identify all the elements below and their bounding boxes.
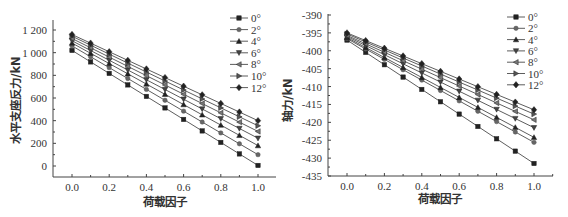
circle-marker-icon [532,140,536,144]
triangle-up-marker-icon [438,85,443,90]
y-axis-title: 水平支座反力/kN [9,56,23,143]
y-tick-label: -415 [302,98,323,110]
triangle-down-marker-icon [162,87,167,92]
legend-label: 0° [528,11,538,23]
y-tick-label: -400 [302,45,323,57]
legend-label: 6° [528,45,538,57]
triangle-left-marker-icon [255,129,260,134]
x-tick-label: 0.4 [140,181,154,193]
square-marker-icon [420,87,424,91]
triangle-down-marker-icon [255,136,260,141]
diamond-marker-icon [255,117,260,123]
triangle-up-marker-icon [200,112,205,117]
y-tick-label: 200 [31,137,48,149]
legend-label: 8° [528,56,538,68]
square-marker-icon [438,100,442,104]
square-marker-icon [237,152,241,156]
triangle-left-marker-icon [237,119,242,124]
series-6deg [69,39,260,141]
square-marker-icon [401,75,405,79]
circle-marker-icon [237,142,241,146]
y-tick-label: -395 [302,27,323,39]
y-tick-label: -425 [302,134,323,146]
x-tick-label: 0.6 [452,180,466,192]
legend-label: 10° [528,68,543,80]
circle-marker-icon [126,76,130,80]
x-tick-label: 0.2 [378,180,392,192]
square-marker-icon [457,112,461,116]
triangle-up-marker-icon [218,122,223,127]
y-tick-label: 800 [31,69,48,81]
legend-label: 6° [251,47,261,59]
x-tick-label: 1.0 [251,181,265,193]
circle-marker-icon [256,152,260,156]
triangle-down-marker-icon [531,126,536,131]
y-tick-label: 400 [31,115,48,127]
series-6deg [344,34,536,130]
axial-force-chart: -390-395-400-405-410-415-420-425-430-435… [281,9,553,206]
legend-label: 10° [251,70,266,82]
triangle-up-marker-icon [255,143,260,148]
x-tick-label: 1.0 [527,180,541,192]
circle-marker-icon [181,109,185,113]
triangle-down-marker-icon [181,97,186,102]
triangle-down-marker-icon [200,107,205,112]
square-marker-icon [219,140,223,144]
series-10deg [70,34,261,129]
y-tick-label: -430 [302,152,323,164]
square-marker-icon [88,60,92,64]
circle-marker-icon [107,65,111,69]
square-marker-icon [513,149,517,153]
legend-label: 8° [251,58,261,70]
triangle-down-marker-icon [237,126,242,131]
square-marker-icon [256,163,260,167]
triangle-up-marker-icon [513,125,518,130]
x-tick-label: 0.2 [102,181,116,193]
triangle-down-marker-icon [457,89,462,94]
x-axis-title: 荷载因子 [142,195,188,209]
legend-label: 12° [251,82,266,94]
x-tick-label: 0.8 [214,181,228,193]
triangle-left-marker-icon [236,62,241,67]
triangle-down-marker-icon [513,116,518,121]
y-tick-label: 1 200 [22,24,47,36]
circle-marker-icon [513,130,517,134]
triangle-left-marker-icon [494,100,499,105]
y-tick-label: -435 [302,170,323,182]
triangle-down-marker-icon [438,80,443,85]
triangle-up-marker-icon [531,135,536,140]
y-tick-label: -410 [302,81,323,93]
x-tick-label: 0.0 [65,181,79,193]
y-tick-label: 1 000 [22,47,47,59]
square-marker-icon [70,48,74,52]
square-marker-icon [494,137,498,141]
triangle-down-marker-icon [218,117,223,122]
square-marker-icon [107,71,111,75]
square-marker-icon [200,129,204,133]
x-tick-label: 0.0 [340,180,354,192]
series-0deg [345,38,536,166]
circle-marker-icon [494,119,498,123]
horizontal-reaction-chart: 02004006008001 0001 2000.00.20.40.60.81.… [9,12,276,209]
triangle-up-marker-icon [457,95,462,100]
circle-marker-icon [163,98,167,102]
circle-marker-icon [219,131,223,135]
circle-marker-icon [144,87,148,91]
triangle-down-marker-icon [475,98,480,103]
x-tick-label: 0.6 [177,181,191,193]
legend-label: 0° [251,12,261,24]
chart-canvas: 02004006008001 0001 2000.00.20.40.60.81.… [0,0,568,217]
y-tick-label: -420 [302,116,323,128]
diamond-marker-icon [513,82,518,88]
square-marker-icon [532,161,536,165]
triangle-right-marker-icon [514,71,519,76]
diamond-marker-icon [236,84,241,90]
square-marker-icon [144,94,148,98]
square-marker-icon [237,16,241,20]
series-8deg [69,36,260,134]
square-marker-icon [514,15,518,19]
y-tick-label: -405 [302,63,323,75]
triangle-left-marker-icon [513,109,518,114]
triangle-right-marker-icon [237,73,242,78]
series-2deg [345,36,536,144]
